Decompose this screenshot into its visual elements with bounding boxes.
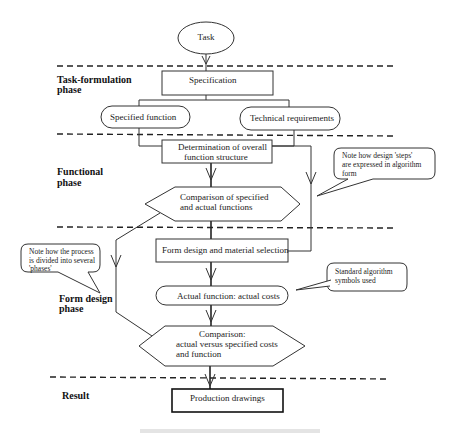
callout-phases: Note how the process is divided into sev… bbox=[21, 244, 100, 293]
phase-divider-4 bbox=[50, 377, 390, 379]
node-form-design: Form design and material selection bbox=[156, 239, 289, 262]
phase-divider-3 bbox=[57, 227, 396, 228]
phase-divider-2 bbox=[57, 134, 396, 136]
svg-text:Comparison:: Comparison: bbox=[199, 329, 246, 339]
phase-label-form-design: Form design phase bbox=[59, 293, 113, 314]
svg-text:Comparison of specified: Comparison of specified bbox=[180, 192, 269, 202]
node-comparison-functions: Comparison of specified and actual funct… bbox=[145, 187, 300, 221]
svg-text:Result: Result bbox=[62, 390, 90, 401]
svg-text:form: form bbox=[342, 169, 357, 178]
callout-design-steps: Note how design 'steps' are expressed in… bbox=[317, 148, 435, 196]
phase-label-result: Result bbox=[62, 390, 90, 401]
connector-left-feedback bbox=[116, 213, 160, 336]
svg-text:and function: and function bbox=[176, 349, 222, 359]
svg-text:Standard algorithm: Standard algorithm bbox=[335, 267, 393, 276]
svg-text:Note how the process: Note how the process bbox=[29, 247, 94, 256]
node-specified-function: Specified function bbox=[101, 106, 190, 128]
svg-text:phase: phase bbox=[57, 177, 82, 188]
svg-text:Specified function: Specified function bbox=[110, 112, 177, 122]
svg-text:Specification: Specification bbox=[189, 75, 237, 85]
svg-text:Task: Task bbox=[198, 32, 215, 42]
svg-text:phase: phase bbox=[57, 84, 82, 95]
svg-text:Production drawings: Production drawings bbox=[190, 393, 265, 403]
node-task: Task bbox=[178, 22, 234, 54]
svg-text:Form design and material sele: Form design and material selection bbox=[162, 245, 289, 255]
node-technical-requirements: Technical requirements bbox=[240, 107, 340, 130]
caption-illegible bbox=[140, 429, 320, 433]
svg-text:Determination of overall: Determination of overall bbox=[178, 142, 267, 152]
svg-text:Functional: Functional bbox=[57, 166, 103, 177]
node-production-drawings: Production drawings bbox=[172, 389, 283, 412]
svg-text:function structure: function structure bbox=[184, 152, 248, 162]
node-specification: Specification bbox=[162, 71, 273, 95]
callout-standard-symbols: Standard algorithm symbols used bbox=[296, 263, 407, 291]
svg-text:Note how design 'steps': Note how design 'steps' bbox=[342, 151, 413, 160]
node-actual-function: Actual function: actual costs bbox=[156, 286, 288, 305]
flowchart-diagram: Task-formulation phase Functional phase … bbox=[0, 0, 456, 433]
svg-text:symbols used: symbols used bbox=[335, 276, 376, 285]
phase-label-functional: Functional phase bbox=[57, 166, 103, 188]
svg-text:Actual function: actual costs: Actual function: actual costs bbox=[177, 291, 280, 301]
svg-text:phase: phase bbox=[59, 303, 84, 314]
connector-techreq-determination bbox=[272, 130, 294, 146]
node-determination: Determination of overall function struct… bbox=[162, 140, 272, 163]
phase-label-task-formulation: Task-formulation phase bbox=[57, 74, 132, 95]
svg-text:'phases': 'phases' bbox=[29, 264, 52, 273]
connector-specfunc-determination bbox=[139, 128, 162, 146]
svg-text:Technical requirements: Technical requirements bbox=[250, 113, 335, 123]
svg-text:actual versus specified costs: actual versus specified costs bbox=[176, 339, 278, 349]
svg-text:and actual functions: and actual functions bbox=[180, 202, 253, 212]
node-comparison-costs: Comparison: actual versus specified cost… bbox=[139, 326, 305, 366]
svg-text:are expressed in algorithm: are expressed in algorithm bbox=[342, 160, 422, 169]
